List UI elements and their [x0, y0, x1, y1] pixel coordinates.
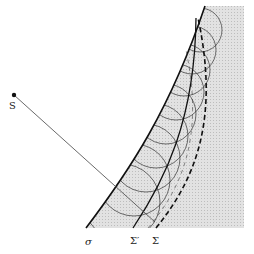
wavefront-prime-label: Σ′ — [130, 235, 139, 246]
huygens-diagram — [0, 0, 254, 254]
surface-label: σ — [85, 236, 92, 247]
wavefront-label: Σ — [152, 235, 159, 246]
source-point — [12, 93, 16, 97]
source-label: S — [9, 100, 16, 111]
